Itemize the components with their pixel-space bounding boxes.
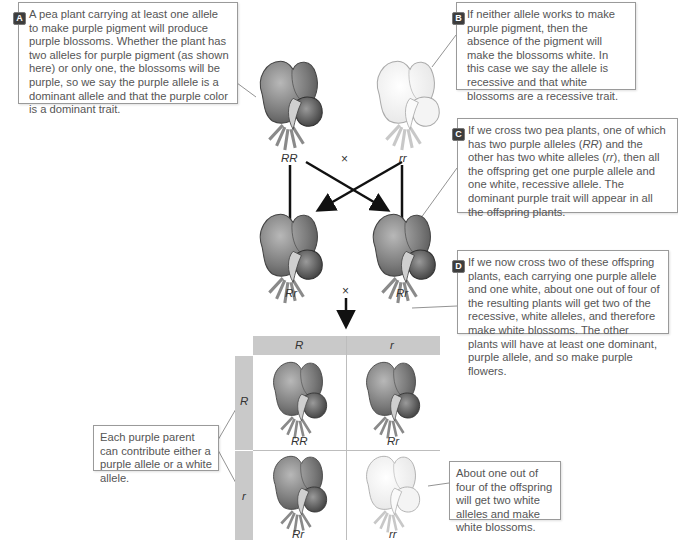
callout-c: If we cross two pea plants, one of which…	[457, 118, 678, 213]
purple-flower-icon-cell-rr	[262, 357, 336, 441]
genotype-label-parent-right: rr	[399, 152, 407, 164]
callout-white-note: About one out of four of the offspring w…	[449, 461, 561, 520]
cross-symbol-parents: ×	[341, 152, 348, 166]
leader-line-d	[412, 306, 457, 308]
cross-symbol-f1: ×	[342, 284, 349, 298]
arrow-rr-to-right	[306, 162, 384, 208]
genotype-label-parent-left: RR	[281, 152, 298, 164]
genotype-label-f1-left: Rr	[285, 287, 297, 299]
purple-flower-icon-parent-rr	[253, 55, 327, 153]
punnett-row-label-0: R	[240, 395, 248, 407]
punnett-col-label-1: r	[390, 339, 394, 351]
punnett-cell-0-0: RR	[291, 435, 308, 447]
white-flower-icon-cell-rr	[355, 451, 429, 535]
white-note-text: About one out of four of the offspring w…	[456, 467, 554, 535]
callout-d: If we now cross two of these offspring p…	[457, 250, 669, 334]
callout-a-text: A pea plant carrying at least one allele…	[29, 8, 229, 117]
punnett-cell-1-0: Rr	[292, 528, 304, 540]
punnett-row-label-1: r	[242, 490, 246, 502]
punnett-cell-1-1: rr	[389, 528, 397, 540]
badge-a-icon: A	[13, 12, 26, 25]
purple-flower-icon-cell-rr-het-2	[262, 451, 336, 535]
parent-note-text: Each purple parent can contribute either…	[100, 431, 212, 485]
punnett-cell-0-1: Rr	[387, 435, 399, 447]
callout-a: A pea plant carrying at least one allele…	[18, 2, 238, 104]
callout-d-text: If we now cross two of these offspring p…	[468, 256, 660, 378]
callout-b-text: If neither allele works to make purple p…	[467, 8, 627, 103]
punnett-col-label-0: R	[295, 339, 303, 351]
purple-flower-icon-cell-rr-het	[355, 357, 429, 441]
callout-c-text: If we cross two pea plants, one of which…	[468, 124, 669, 219]
callout-parent-note: Each purple parent can contribute either…	[93, 425, 219, 471]
white-flower-icon-parent-rr	[370, 55, 444, 153]
badge-b-icon: B	[452, 12, 465, 25]
callout-b: If neither allele works to make purple p…	[456, 2, 636, 90]
leader-line-white	[428, 483, 449, 486]
badge-d-icon: D	[452, 260, 465, 273]
punnett-col-divider	[346, 336, 347, 540]
punnett-side-divider	[235, 450, 253, 451]
arrow-little-rr-to-left	[322, 162, 402, 208]
badge-c-icon: C	[452, 128, 465, 141]
genotype-label-f1-right: Rr	[396, 287, 408, 299]
